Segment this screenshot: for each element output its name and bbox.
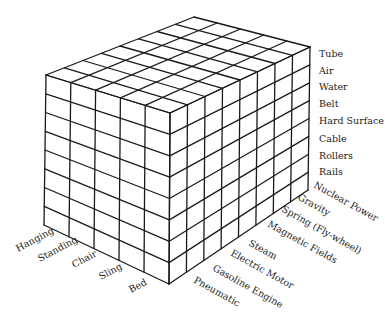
grid-line [45, 131, 169, 177]
medium-label: Water [319, 81, 348, 92]
grid-line [46, 113, 170, 156]
medium-label: Cable [319, 133, 347, 144]
medium-label: Tube [319, 48, 344, 59]
medium-label: Belt [319, 98, 339, 109]
support-labels: HangingStandingChairSlingBed [14, 225, 149, 295]
morphological-box-diagram: TubeAirWaterBeltHard SurfaceCableRollers… [0, 0, 385, 320]
power-label: Nuclear Power [312, 179, 380, 224]
grid-line [45, 150, 170, 199]
medium-labels: TubeAirWaterBeltHard SurfaceCableRollers… [318, 48, 384, 177]
grid-line [46, 94, 170, 135]
grid-line [139, 39, 258, 72]
support-label: Bed [127, 276, 149, 294]
grid-line [120, 46, 240, 80]
medium-label: Rails [319, 166, 343, 177]
medium-label: Rollers [319, 150, 353, 161]
grid-line [176, 24, 293, 55]
support-label: Chair [70, 247, 99, 269]
power-labels: PneumaticGasoline EngineElectric MotorSt… [192, 179, 380, 310]
support-label: Sling [97, 260, 124, 281]
cube-grid [44, 17, 310, 284]
medium-label: Air [318, 65, 334, 76]
grid-line [157, 32, 275, 64]
grid-line [194, 17, 310, 47]
medium-label: Hard Surface [319, 115, 384, 126]
grid-line [45, 169, 170, 220]
